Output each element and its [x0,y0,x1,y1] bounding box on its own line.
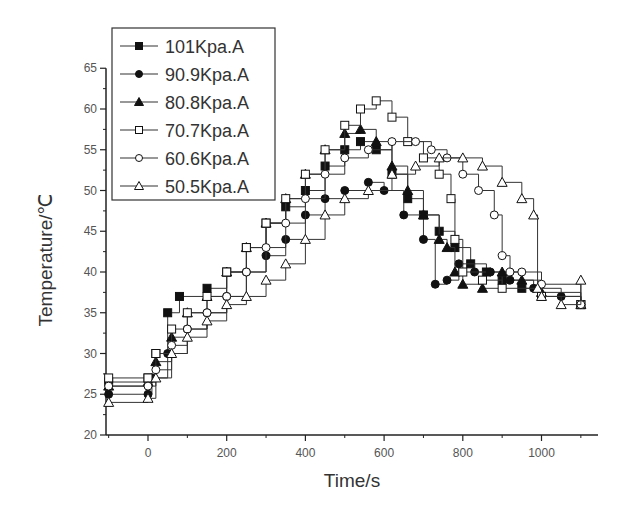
x-tick-label: 800 [453,446,473,460]
y-tick-label: 60 [84,102,98,116]
temperature-time-chart: 2025303540455055606502004006008001000 10… [0,0,626,509]
x-tick-label: 0 [145,446,152,460]
y-tick-label: 65 [84,61,98,75]
y-tick-label: 55 [84,143,98,157]
legend: 101Kpa.A90.9Kpa.A80.8Kpa.A70.7Kpa.A60.6K… [112,28,275,200]
y-tick-label: 30 [84,347,98,361]
legend-label: 60.6Kpa.A [165,149,249,169]
x-tick-label: 600 [374,446,394,460]
y-tick-label: 45 [84,224,98,238]
y-tick-label: 20 [84,428,98,442]
y-axis-title: Temperature/℃ [35,194,56,327]
y-tick-label: 35 [84,306,98,320]
legend-label: 101Kpa.A [165,37,244,57]
x-tick-label: 1000 [528,446,555,460]
y-tick-label: 40 [84,265,98,279]
legend-label: 90.9Kpa.A [165,65,249,85]
legend-label: 80.8Kpa.A [165,93,249,113]
y-tick-label: 25 [84,387,98,401]
legend-label: 70.7Kpa.A [165,121,249,141]
legend-label: 50.5Kpa.A [165,177,249,197]
x-tick-label: 200 [217,446,237,460]
x-tick-label: 400 [295,446,315,460]
x-axis-title: Time/s [324,470,380,491]
y-tick-label: 50 [84,184,98,198]
